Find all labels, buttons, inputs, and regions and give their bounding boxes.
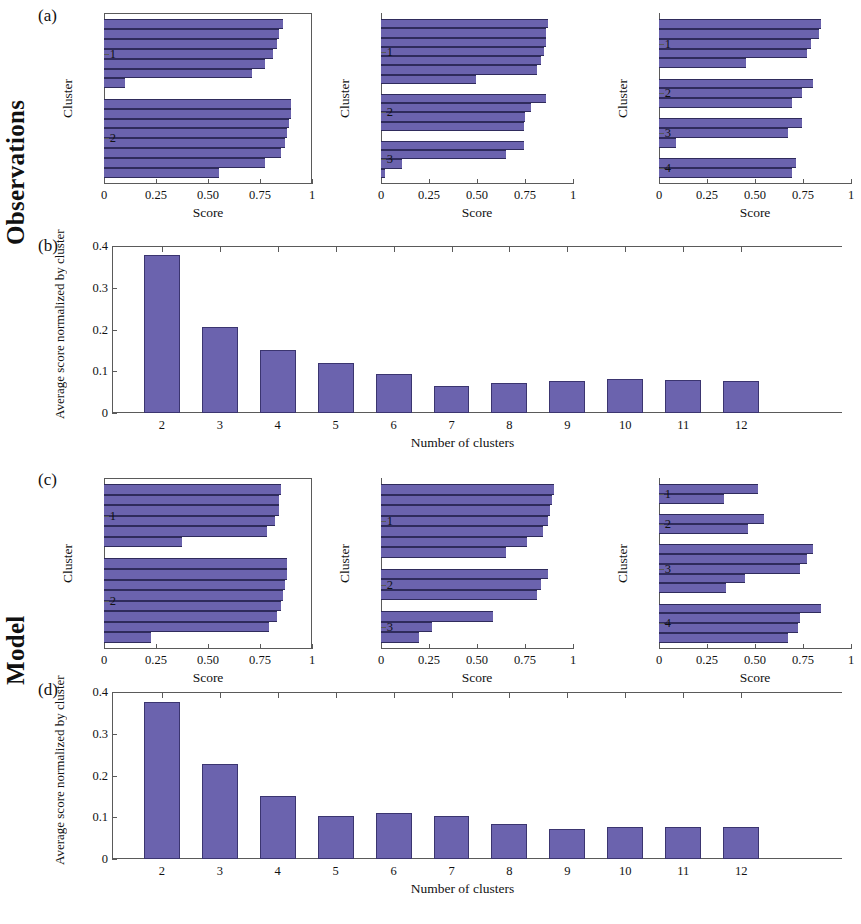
value-bar (260, 350, 296, 413)
silhouette-bar (104, 138, 285, 148)
x-tick-mark (755, 644, 756, 649)
top-tick-mark (336, 246, 337, 252)
y-tick-mark (112, 776, 117, 777)
x-tick-label: 4 (275, 864, 281, 879)
y-axis-label: Cluster (60, 13, 76, 184)
value-bar (491, 824, 527, 859)
cluster-tick-mark (659, 524, 664, 525)
x-tick-mark (525, 179, 526, 184)
x-tick-label: 11 (677, 864, 689, 879)
top-tick-mark (278, 246, 279, 252)
y-axis-label: Cluster (337, 13, 353, 184)
silhouette-bar (381, 28, 546, 37)
y-axis-label: Cluster (337, 478, 353, 649)
silhouette-chart-c2 (381, 478, 573, 649)
y-tick-label: 0.4 (78, 685, 108, 700)
silhouette-bar (104, 128, 287, 138)
x-tick-label: 0.25 (145, 653, 167, 668)
y-tick-label: 0 (78, 852, 108, 867)
x-tick-label: 10 (619, 418, 632, 433)
cluster-tick-mark (104, 54, 109, 55)
top-tick-mark (278, 692, 279, 698)
cluster-tick-mark (381, 585, 386, 586)
cluster-tick-mark (659, 494, 664, 495)
x-tick-label: 2 (159, 864, 165, 879)
x-tick-mark (429, 179, 430, 184)
value-bar (665, 827, 701, 859)
x-tick-label: 1 (570, 188, 576, 203)
x-tick-label: 0.75 (249, 188, 271, 203)
top-tick-mark (220, 692, 221, 698)
x-tick-label: 0 (656, 188, 662, 203)
silhouette-bar (104, 516, 275, 527)
silhouette-bar (659, 544, 813, 554)
top-tick-mark (452, 246, 453, 252)
silhouette-bar (104, 29, 279, 39)
silhouette-bar (381, 47, 544, 56)
silhouette-bar (104, 148, 281, 158)
x-tick-label: 0.50 (197, 188, 219, 203)
x-tick-label: 0.50 (466, 653, 488, 668)
cluster-tick-mark (659, 569, 664, 570)
silhouette-bar (381, 547, 506, 558)
silhouette-bar (104, 158, 265, 168)
x-tick-mark (429, 644, 430, 649)
silhouette-chart-c3 (659, 478, 851, 649)
x-tick-mark (477, 179, 478, 184)
silhouette-bar (659, 158, 796, 168)
silhouette-bar (104, 19, 283, 29)
cluster-tick-mark (381, 112, 386, 113)
value-bar (434, 386, 470, 413)
silhouette-bar (381, 141, 524, 150)
cluster-tick-mark (659, 44, 664, 45)
silhouette-bar (659, 514, 764, 524)
top-tick-mark (509, 246, 510, 252)
x-tick-label: 1 (309, 653, 315, 668)
cluster-tick-mark (104, 516, 109, 517)
silhouette-bar (659, 484, 758, 494)
silhouette-bar (659, 39, 811, 49)
silhouette-bar (659, 79, 813, 89)
x-tick-mark (477, 644, 478, 649)
x-tick-mark (208, 179, 209, 184)
y-tick-mark (112, 734, 117, 735)
x-tick-label: 0 (101, 653, 107, 668)
x-tick-label: 0.25 (418, 653, 440, 668)
silhouette-bar (104, 558, 287, 569)
value-bar (723, 827, 759, 859)
silhouette-bar (381, 505, 550, 516)
x-tick-mark (104, 179, 105, 184)
top-tick-mark (567, 692, 568, 698)
value-bar (260, 796, 296, 859)
silhouette-bar (659, 613, 800, 623)
silhouette-bar (104, 119, 289, 129)
silhouette-bar (381, 112, 525, 121)
silhouette-bar (659, 524, 748, 534)
silhouette-bar (104, 49, 273, 59)
x-axis-label: Score (462, 670, 493, 686)
x-axis-label: Number of clusters (411, 435, 514, 451)
panel-letter-c: (c) (38, 470, 57, 490)
top-tick-mark (683, 246, 684, 252)
silhouette-bar (659, 118, 802, 128)
y-axis-label: Average score normalized by cluster (52, 686, 68, 865)
silhouette-bar (659, 583, 726, 593)
y-tick-mark (112, 692, 117, 693)
value-bar (318, 816, 354, 859)
silhouette-bar (104, 580, 285, 591)
x-axis-label: Score (193, 205, 224, 221)
x-axis-label: Score (740, 670, 771, 686)
y-tick-mark (112, 246, 117, 247)
x-tick-label: 0 (101, 188, 107, 203)
silhouette-bar (104, 622, 269, 633)
x-tick-label: 0 (378, 653, 384, 668)
x-tick-label: 10 (619, 864, 632, 879)
x-tick-label: 9 (564, 418, 570, 433)
silhouette-bar (381, 65, 537, 74)
x-tick-label: 7 (448, 864, 454, 879)
bar-chart-b (112, 246, 842, 413)
silhouette-bar (381, 150, 506, 159)
x-tick-label: 5 (332, 418, 338, 433)
value-bar (202, 764, 238, 859)
axes-top-spine (112, 692, 842, 693)
